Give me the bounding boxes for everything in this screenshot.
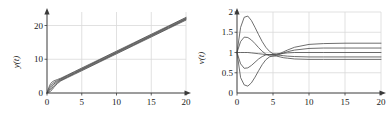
right-y-axis-arrow [234, 8, 239, 15]
x-tick-label: 15 [147, 97, 157, 107]
right-x-axis-arrow [380, 90, 387, 95]
figure-two-panel-plot: 0510152001020 y(t) 0510152000.511.52 v(t… [0, 0, 391, 114]
y-tick-label: 1.5 [222, 27, 234, 37]
x-tick-label: 5 [80, 97, 85, 107]
left-x-axis-arrow [185, 90, 192, 95]
y-tick-label: 1 [229, 48, 234, 58]
x-tick-label: 15 [341, 97, 351, 107]
left-tick-labels: 0510152001020 [34, 21, 191, 107]
left-plot-svg: 0510152001020 y(t) [0, 0, 196, 114]
chart-panel-right: 0510152000.511.52 v(t) [195, 0, 391, 114]
right-y-axis-title: v(t) [196, 52, 206, 65]
y-tick-label: 0 [229, 88, 234, 98]
y-tick-label: 2 [229, 7, 234, 17]
x-tick-label: 10 [305, 97, 315, 107]
left-y-axis-arrow [44, 8, 49, 15]
x-tick-label: 20 [182, 97, 192, 107]
y-tick-label: 20 [34, 21, 44, 31]
x-tick-label: 10 [112, 97, 122, 107]
left-tick-marks [45, 26, 187, 96]
left-y-axis-title: y(t) [11, 56, 21, 70]
x-tick-label: 20 [377, 97, 387, 107]
x-tick-label: 5 [271, 97, 276, 107]
right-axes [234, 8, 386, 96]
chart-panel-left: 0510152001020 y(t) [0, 0, 196, 114]
y-tick-label: 10 [34, 54, 44, 64]
x-tick-label: 0 [235, 97, 240, 107]
y-tick-label: 0 [39, 88, 44, 98]
right-plot-svg: 0510152000.511.52 v(t) [195, 0, 391, 114]
y-tick-label: 0.5 [222, 68, 234, 78]
x-tick-label: 0 [45, 97, 50, 107]
